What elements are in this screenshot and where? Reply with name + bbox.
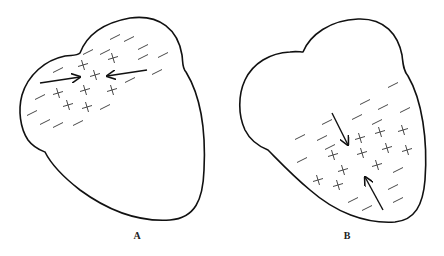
minus-sign: [138, 55, 148, 60]
plus-sign: [398, 125, 408, 135]
depolarization-arrows-b: [332, 113, 383, 210]
plus-sign: [80, 85, 90, 95]
minus-sign: [27, 111, 37, 116]
panel-label-a: A: [133, 230, 140, 241]
minus-sign: [138, 45, 148, 50]
heart-outline-a: [20, 17, 204, 220]
minus-sign: [325, 145, 335, 150]
plus-sign: [328, 150, 338, 160]
diagram-canvas: [0, 0, 444, 256]
heart-outline-b: [240, 19, 426, 222]
minus-sign: [100, 50, 110, 55]
minus-sign: [53, 68, 63, 73]
minus-sign: [348, 198, 358, 203]
minus-sign: [35, 95, 45, 100]
minus-sign: [73, 121, 83, 126]
plus-sign: [338, 165, 348, 175]
plus-sign: [78, 60, 88, 70]
heart-depolarization-figure: A B: [0, 0, 444, 256]
minus-sign: [322, 120, 332, 125]
plus-sign: [333, 180, 343, 190]
plus-sign: [372, 160, 382, 170]
depolarization-arrows-a: [40, 70, 147, 83]
arrow-icon: [40, 77, 80, 83]
plus-sign: [107, 85, 117, 95]
minus-sign: [53, 123, 63, 128]
charge-symbols-a: [27, 35, 168, 128]
plus-sign: [375, 127, 385, 137]
minus-sign: [388, 83, 398, 88]
minus-sign: [297, 158, 307, 163]
plus-sign: [355, 133, 365, 143]
plus-sign: [82, 102, 92, 112]
plus-sign: [402, 145, 412, 155]
minus-sign: [378, 105, 388, 110]
minus-sign: [360, 100, 370, 105]
minus-sign: [295, 135, 305, 140]
minus-sign: [362, 206, 372, 211]
arrow-icon: [107, 70, 147, 76]
minus-sign: [393, 198, 403, 203]
arrow-icon: [365, 177, 383, 210]
minus-sign: [393, 168, 403, 173]
plus-sign: [108, 53, 118, 63]
minus-sign: [388, 185, 398, 190]
minus-sign: [158, 53, 168, 58]
plus-sign: [313, 175, 323, 185]
minus-sign: [110, 35, 120, 40]
plus-sign: [357, 148, 367, 158]
minus-sign: [400, 108, 410, 113]
minus-sign: [83, 50, 93, 55]
plus-sign: [53, 88, 63, 98]
arrow-icon: [332, 113, 348, 145]
panel-label-b: B: [344, 230, 351, 241]
minus-sign: [124, 37, 134, 42]
minus-sign: [152, 70, 162, 75]
plus-sign: [63, 100, 73, 110]
minus-sign: [125, 78, 135, 83]
minus-sign: [40, 120, 50, 125]
heart-panel-a: [20, 17, 204, 220]
heart-panel-b: [240, 19, 426, 222]
minus-sign: [100, 105, 110, 110]
minus-sign: [317, 136, 327, 141]
plus-sign: [90, 70, 100, 80]
minus-sign: [372, 120, 382, 125]
minus-sign: [352, 115, 362, 120]
plus-sign: [382, 143, 392, 153]
